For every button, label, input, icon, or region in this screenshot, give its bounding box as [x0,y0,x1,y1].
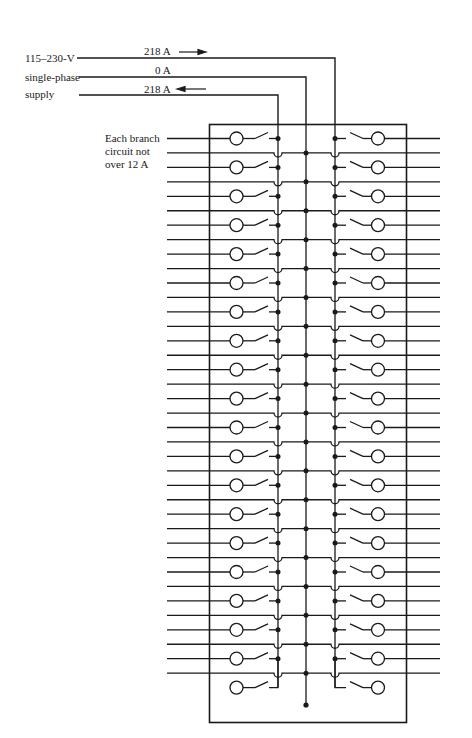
breaker-left-icon [230,421,243,434]
neutral-tap-row [167,555,440,562]
junction-dot [333,165,338,170]
switch-left-icon [255,508,268,514]
switch-left-icon [255,624,268,630]
junction-dot [333,541,338,546]
switch-right-icon [350,682,363,688]
switch-right-icon [350,133,363,139]
junction-dot [276,598,281,603]
switch-right-icon [350,248,363,254]
switch-left-icon [255,566,268,572]
junction-dot [276,425,281,430]
breaker-left-icon [230,623,243,636]
switch-left-icon [255,653,268,659]
junction-dot [276,252,281,257]
neutral-junction-dot [304,266,309,271]
breaker-left-icon [230,305,243,318]
junction-dot [276,396,281,401]
switch-right-icon [350,161,363,167]
breaker-row [167,161,440,174]
switch-left-icon [255,219,268,225]
junction-dot [333,454,338,459]
neutral-branch-wire [167,384,440,388]
switch-right-icon [350,450,363,456]
junction-dot [333,136,338,141]
switch-left-icon [255,364,268,370]
neutral-junction-dot [304,295,309,300]
breaker-left-icon [230,594,243,607]
switch-right-icon [350,190,363,196]
junction-dot [333,309,338,314]
breaker-right-icon [372,450,385,463]
junction-dot [276,165,281,170]
breaker-row [167,623,440,636]
neutral-tap-row [167,266,440,273]
junction-dot [333,483,338,488]
switch-right-icon [350,624,363,630]
arrow-right-head-icon [198,50,206,55]
current-label-hot-2: 218 A [144,83,171,96]
neutral-junction-dot [304,179,309,184]
neutral-tap-row [167,353,440,360]
neutral-junction-dot [304,642,309,647]
switch-right-icon [350,219,363,225]
switch-right-icon [350,479,363,485]
neutral-tap-row [167,584,440,591]
neutral-branch-wire [167,586,440,590]
breaker-left-icon [230,537,243,550]
breaker-right-icon [372,392,385,405]
breaker-right-icon [372,132,385,145]
breaker-left-icon [230,508,243,521]
switch-right-icon [350,595,363,601]
breaker-row [167,190,440,203]
switch-left-icon [255,306,268,312]
switch-left-icon [255,133,268,139]
neutral-tap-row [167,497,440,504]
breaker-row [167,305,440,318]
neutral-branch-wire [167,413,440,417]
neutral-branch-wire [167,269,440,273]
switch-left-icon [255,537,268,543]
breaker-row [167,334,440,347]
breaker-right-icon [372,334,385,347]
neutral-junction-dot [304,237,309,242]
junction-dot [333,570,338,575]
supply-label-phase: single-phase [25,71,80,84]
neutral-branch-wire [167,615,440,619]
breaker-left-icon [230,132,243,145]
neutral-branch-wire [167,326,440,330]
neutral-junction-dot [304,382,309,387]
junction-dot [276,367,281,372]
breaker-row [167,392,440,405]
junction-dot [276,309,281,314]
switch-right-icon [350,537,363,543]
breaker-right-icon [372,508,385,521]
junction-dot [333,252,338,257]
neutral-tap-row [167,382,440,389]
breaker-rows [167,132,440,694]
junction-dot [333,512,338,517]
breaker-left-icon [230,566,243,579]
neutral-junction-dot [304,411,309,416]
breaker-row [230,660,385,695]
breaker-left-icon [230,334,243,347]
breaker-right-icon [372,248,385,261]
breaker-right-icon [372,161,385,174]
junction-dot [276,136,281,141]
neutral-branch-wire [167,211,440,215]
neutral-junction-dot [304,439,309,444]
breaker-right-icon [372,479,385,492]
neutral-tap-row [167,411,440,418]
branch-note-line-3: over 12 A [105,158,148,171]
breaker-left-icon [230,652,243,665]
switch-left-icon [255,479,268,485]
breaker-right-icon [372,305,385,318]
neutral-branch-wire [167,442,440,446]
breaker-row [167,652,440,665]
breaker-row [167,508,440,521]
junction-dot [276,194,281,199]
neutral-branch-wire [167,471,440,475]
breaker-right-icon [372,190,385,203]
breaker-left-icon [230,479,243,492]
switch-right-icon [350,566,363,572]
junction-dot [333,367,338,372]
